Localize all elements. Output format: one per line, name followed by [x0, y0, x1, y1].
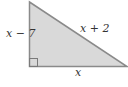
right-triangle [30, 2, 128, 67]
base-label: x [75, 66, 82, 79]
left-leg-label: x − 7 [6, 27, 35, 40]
triangle-diagram: x − 7 x + 2 x [0, 0, 128, 87]
hypotenuse-label: x + 2 [80, 22, 109, 35]
